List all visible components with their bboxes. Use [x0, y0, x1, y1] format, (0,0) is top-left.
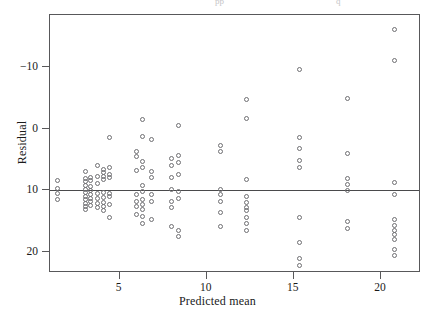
x-axis-tick: [380, 272, 381, 279]
data-point: [149, 169, 154, 174]
data-point: [345, 188, 350, 193]
y-axis-tick: [42, 189, 49, 190]
data-point: [140, 159, 145, 164]
data-point: [218, 143, 223, 148]
data-point: [140, 189, 145, 194]
data-point: [169, 163, 174, 168]
data-point: [55, 191, 60, 196]
data-point: [297, 158, 302, 163]
data-point: [244, 116, 249, 121]
data-point: [107, 165, 112, 170]
data-point: [392, 58, 397, 63]
data-point: [297, 146, 302, 151]
data-point: [297, 215, 302, 220]
y-axis-tick: [42, 251, 49, 252]
data-point: [392, 247, 397, 252]
x-axis-title: Predicted mean: [0, 295, 435, 308]
data-point: [101, 177, 106, 182]
x-axis-tick: [206, 272, 207, 279]
data-point: [392, 27, 397, 32]
data-point: [345, 226, 350, 231]
data-point: [95, 163, 100, 168]
data-point: [134, 192, 139, 197]
y-axis-tick: [42, 66, 49, 67]
data-point: [140, 207, 145, 212]
data-point: [101, 208, 106, 213]
data-point: [244, 208, 249, 213]
data-point: [244, 97, 249, 102]
data-point: [169, 175, 174, 180]
plot-area: [50, 15, 419, 271]
data-point: [218, 210, 223, 215]
residual-scatter-figure: pp q 20100−105101520 Residual Predicted …: [0, 0, 435, 312]
data-point: [169, 205, 174, 210]
data-point: [140, 165, 145, 170]
data-point: [149, 192, 154, 197]
y-axis-tick-label: −10: [4, 60, 38, 72]
data-point: [169, 187, 174, 192]
y-axis-title: Residual: [16, 98, 29, 188]
data-point: [83, 207, 88, 212]
data-point: [176, 160, 181, 165]
data-point: [176, 123, 181, 128]
data-point: [244, 177, 249, 182]
data-point: [176, 172, 181, 177]
data-point: [297, 240, 302, 245]
data-point: [345, 151, 350, 156]
data-point: [140, 117, 145, 122]
data-point: [176, 153, 181, 158]
data-point: [55, 197, 60, 202]
data-point: [134, 212, 139, 217]
data-point: [107, 175, 112, 180]
data-point: [149, 199, 154, 204]
data-point: [392, 223, 397, 228]
data-point: [149, 175, 154, 180]
data-point: [95, 174, 100, 179]
data-point: [149, 137, 154, 142]
data-point: [392, 253, 397, 258]
data-point: [83, 169, 88, 174]
data-point: [95, 205, 100, 210]
data-point: [297, 67, 302, 72]
x-axis-tick-label: 10: [186, 281, 226, 293]
data-point: [88, 203, 93, 208]
data-point: [218, 192, 223, 197]
data-point: [149, 217, 154, 222]
data-point: [95, 181, 100, 186]
data-point: [297, 165, 302, 170]
data-point: [55, 178, 60, 183]
y-axis-tick: [42, 128, 49, 129]
data-point: [218, 149, 223, 154]
x-axis-tick: [293, 272, 294, 279]
data-point: [297, 256, 302, 261]
data-point: [345, 96, 350, 101]
top-cropped-text-left: pp: [215, 0, 224, 6]
data-point: [140, 183, 145, 188]
data-point: [244, 215, 249, 220]
data-point: [140, 214, 145, 219]
data-point: [345, 176, 350, 181]
data-point: [134, 204, 139, 209]
data-point: [297, 263, 302, 268]
data-point: [297, 135, 302, 140]
x-axis-tick-label: 20: [360, 281, 400, 293]
data-point: [134, 168, 139, 173]
data-point: [169, 199, 174, 204]
data-point: [88, 178, 93, 183]
data-point: [244, 228, 249, 233]
data-point: [140, 134, 145, 139]
data-point: [392, 192, 397, 197]
data-point: [107, 202, 112, 207]
data-point: [244, 194, 249, 199]
data-point: [107, 215, 112, 220]
data-point: [140, 221, 145, 226]
data-point: [392, 217, 397, 222]
top-cropped-text: pp q: [0, 0, 435, 9]
data-point: [345, 182, 350, 187]
data-point: [176, 228, 181, 233]
data-point: [134, 154, 139, 159]
data-point: [107, 135, 112, 140]
data-point: [244, 221, 249, 226]
data-point: [218, 199, 223, 204]
data-point: [176, 196, 181, 201]
